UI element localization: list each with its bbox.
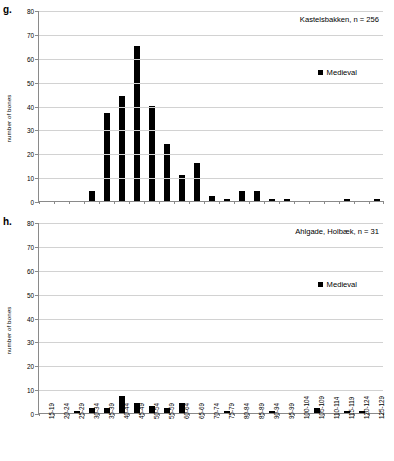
x-axis-category-label: 75-79 (228, 403, 235, 419)
x-axis-category-label: 45-49 (138, 403, 145, 419)
y-axis-tick (35, 390, 39, 391)
y-axis-tick (35, 178, 39, 179)
x-axis-category-label: 25-29 (78, 403, 85, 419)
plot-area-g: Kastelsbakken, n = 256 Medieval 01020304… (38, 11, 383, 202)
x-axis-category-label: 15-19 (48, 403, 55, 419)
bar (194, 163, 200, 201)
x-axis-tick (324, 201, 325, 204)
legend-h: Medieval (318, 280, 357, 289)
bar (224, 199, 230, 201)
y-axis-tick (35, 295, 39, 296)
x-axis-tick (54, 201, 55, 204)
x-axis-category-label: 80-84 (243, 403, 250, 419)
x-axis-tick (144, 201, 145, 204)
bar (254, 191, 260, 201)
gridline (39, 130, 383, 131)
figure-bone-length-histograms: g. number of bones Kastelsbakken, n = 25… (0, 0, 394, 461)
gridline (39, 319, 383, 320)
chart-panel-g: g. number of bones Kastelsbakken, n = 25… (0, 0, 394, 211)
legend-label-medieval: Medieval (327, 280, 357, 289)
x-axis-category-label: 125-129 (378, 396, 385, 419)
y-axis-tick (35, 59, 39, 60)
y-axis-tick-label: 50 (27, 291, 34, 298)
x-axis-tick (84, 201, 85, 204)
x-axis-category-label: 70-74 (213, 403, 220, 419)
gridline (39, 83, 383, 84)
gridline (39, 247, 383, 248)
bar (119, 96, 125, 201)
x-axis-category-label: 105-109 (318, 396, 325, 419)
x-axis-category-label: 110-114 (333, 397, 340, 419)
gridline (39, 223, 383, 224)
x-axis-category-label: 115-119 (348, 397, 355, 419)
x-axis-tick (129, 201, 130, 204)
y-axis-tick-label: 50 (27, 79, 34, 86)
chart-annotation-h: Ahlgade, Holbæk, n = 31 (295, 227, 379, 236)
x-axis-tick (174, 201, 175, 204)
y-axis-tick-label: 40 (27, 103, 34, 110)
y-axis-tick-label: 80 (27, 8, 34, 15)
x-axis-category-label: 90-94 (273, 403, 280, 419)
x-axis-category-label: 55-59 (168, 403, 175, 419)
y-axis-title-g: number of bones (5, 89, 12, 149)
y-axis-tick (35, 83, 39, 84)
x-axis-tick (39, 413, 40, 416)
x-axis-category-label: 35-39 (108, 403, 115, 419)
y-axis-tick-label: 0 (30, 199, 34, 206)
y-axis-tick (35, 35, 39, 36)
x-axis-tick (69, 201, 70, 204)
y-axis-tick-label: 40 (27, 315, 34, 322)
bar (344, 199, 350, 201)
gridline (39, 342, 383, 343)
x-axis-tick (189, 201, 190, 204)
y-axis-tick (35, 130, 39, 131)
legend-swatch-icon (318, 282, 323, 287)
y-axis-tick (35, 11, 39, 12)
chart-panel-h: h. number of bones Ahlgade, Holbæk, n = … (0, 212, 394, 461)
y-axis-tick-label: 70 (27, 243, 34, 250)
bar (284, 199, 290, 201)
bar (209, 196, 215, 201)
bar (104, 113, 110, 201)
x-axis-category-label: 65-69 (198, 403, 205, 419)
x-axis-category-labels: 15-1920-2425-2930-3435-3940-4445-4950-54… (38, 419, 383, 459)
y-axis-tick-label: 60 (27, 55, 34, 62)
x-axis-tick (159, 201, 160, 204)
y-axis-tick-label: 70 (27, 31, 34, 38)
x-axis-tick (383, 201, 384, 204)
x-axis-tick (249, 201, 250, 204)
chart-annotation-g: Kastelsbakken, n = 256 (300, 15, 379, 24)
x-axis-tick (294, 201, 295, 204)
bar (239, 191, 245, 201)
x-axis-tick (114, 201, 115, 204)
x-axis-category-label: 85-89 (258, 403, 265, 419)
x-axis-tick (279, 201, 280, 204)
x-axis-tick (354, 201, 355, 204)
bar (269, 199, 275, 201)
legend-label-medieval: Medieval (327, 68, 357, 77)
gridline (39, 59, 383, 60)
y-axis-tick (35, 107, 39, 108)
bar (149, 106, 155, 202)
y-axis-tick-label: 10 (27, 387, 34, 394)
x-axis-category-label: 30-34 (93, 403, 100, 419)
gridline (39, 35, 383, 36)
bar (374, 199, 380, 201)
x-axis-tick (39, 201, 40, 204)
x-axis-category-label: 50-54 (153, 403, 160, 419)
legend-swatch-icon (318, 70, 323, 75)
y-axis-tick (35, 271, 39, 272)
bar (164, 144, 170, 201)
x-axis-tick (204, 201, 205, 204)
x-axis-category-label: 120-124 (363, 396, 370, 419)
x-axis-tick (264, 201, 265, 204)
y-axis-tick (35, 223, 39, 224)
x-axis-category-label: 40-44 (123, 403, 130, 419)
y-axis-tick-label: 60 (27, 267, 34, 274)
x-axis-category-label: 60-64 (183, 403, 190, 419)
y-axis-tick-label: 0 (30, 411, 34, 418)
x-axis-tick (234, 201, 235, 204)
x-axis-tick (99, 201, 100, 204)
y-axis-tick-label: 30 (27, 339, 34, 346)
y-axis-tick (35, 342, 39, 343)
